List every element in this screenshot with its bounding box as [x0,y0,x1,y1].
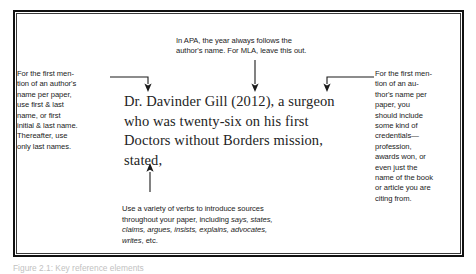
callout-signal-verbs: Use a variety of verbs to introduce sour… [122,194,322,246]
signal-verbs-tail: , etc. [142,236,158,245]
figure-page: In APA, the year always follows the auth… [0,0,476,274]
callout-author-name-usage: For the first men- tion of an author's n… [17,69,105,152]
callout-apa-year-note: In APA, the year always follows the auth… [176,36,372,57]
example-sentence: Dr. Davinder Gill (2012), a surgeon who … [124,92,352,170]
callout-author-credentials: For the first men- tion of an au- thor's… [375,69,467,204]
figure-caption: Figure 2.1: Key reference elements [13,263,313,274]
